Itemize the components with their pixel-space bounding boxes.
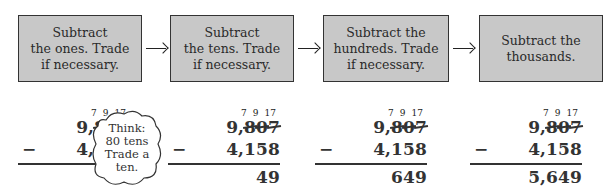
minuend-row: 9,807 [226, 117, 280, 137]
digit: 6 [546, 167, 558, 187]
thought-bubble: Think: 80 tens Trade a ten. [92, 110, 162, 186]
digit: 4 [558, 167, 570, 187]
digit: 9 [226, 117, 238, 137]
minuend-row: 9,807 [528, 117, 582, 137]
step-box-thousands: Subtract the thousands. [479, 15, 603, 82]
difference-row: 5,649 [528, 167, 582, 187]
step-box-ones: Subtract the ones. Trade if necessary. [18, 15, 142, 82]
digit: 7 [415, 117, 427, 137]
difference-row: 49 [256, 167, 280, 187]
subtrahend-row: 4,158 [528, 139, 582, 159]
digit: 7 [268, 117, 280, 137]
digit: 4 [76, 139, 88, 159]
digit: 5 [256, 139, 268, 159]
digit: 9 [415, 167, 427, 187]
digit: 6 [391, 167, 403, 187]
sum-line [315, 163, 427, 165]
digit: 4 [256, 167, 268, 187]
digit: 4 [373, 139, 385, 159]
minus-sign: − [22, 139, 36, 159]
digit: 1 [244, 139, 256, 159]
step-box-hundreds: Subtract the hundreds. Trade if necessar… [323, 15, 449, 82]
step-label: Subtract the hundreds. Trade if necessar… [333, 25, 438, 73]
subtrahend-row: 4,158 [373, 139, 427, 159]
digit: 5 [528, 167, 540, 187]
digit: 5 [403, 139, 415, 159]
subtrahend-row: 4,158 [226, 139, 280, 159]
digit: 9 [268, 167, 280, 187]
arrow-icon [298, 48, 318, 49]
digit: 1 [391, 139, 403, 159]
step-box-tens: Subtract the tens. Trade if necessary. [170, 15, 294, 82]
subtraction-problem-step-2: 7 9 17 9,807 − 4,158 49 [190, 108, 280, 188]
digit: 1 [546, 139, 558, 159]
sum-line [470, 163, 582, 165]
digit: 9 [528, 117, 540, 137]
minus-sign: − [172, 139, 186, 159]
digit: 8 [415, 139, 427, 159]
digit: 4 [528, 139, 540, 159]
arrow-icon [453, 48, 473, 49]
subtraction-problem-step-4: 7 9 17 9,807 − 4,158 5,649 [492, 108, 582, 188]
digit: 8 [570, 139, 582, 159]
digit: 9 [76, 117, 88, 137]
digit: 4 [403, 167, 415, 187]
digit: 5 [558, 139, 570, 159]
digit: 8 [268, 139, 280, 159]
step-label: Subtract the tens. Trade if necessary. [184, 25, 280, 73]
step-label: Subtract the thousands. [501, 33, 581, 65]
minus-sign: − [319, 139, 333, 159]
digit: 4 [226, 139, 238, 159]
digit: 7 [570, 117, 582, 137]
minus-sign: − [474, 139, 488, 159]
difference-row: 649 [391, 167, 427, 187]
digit: 9 [373, 117, 385, 137]
arrow-icon [146, 48, 166, 49]
step-label: Subtract the ones. Trade if necessary. [31, 25, 130, 73]
bubble-text: Think: 80 tens Trade a ten. [92, 122, 162, 174]
minuend-row: 9,807 [373, 117, 427, 137]
subtraction-problem-step-3: 7 9 17 9,807 − 4,158 649 [337, 108, 427, 188]
digit: 9 [570, 167, 582, 187]
sum-line [168, 163, 280, 165]
